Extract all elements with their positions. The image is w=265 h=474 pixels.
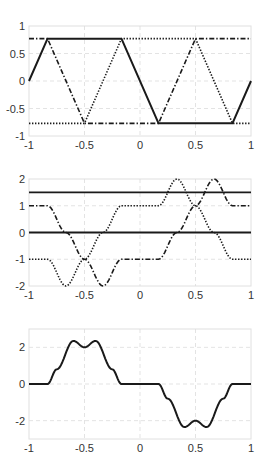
x-tick-label: 0 — [137, 139, 143, 151]
x-tick-label: 1 — [248, 139, 254, 151]
x-tick-label: -0.5 — [75, 289, 94, 301]
x-tick-label: -0.5 — [75, 442, 94, 454]
x-tick-label: -0.5 — [75, 139, 94, 151]
x-tick-label: -1 — [24, 139, 34, 151]
x-tick-label: 0.5 — [188, 289, 203, 301]
y-tick-label: 0 — [19, 75, 25, 87]
x-tick-label: 0.5 — [188, 139, 203, 151]
x-tick-label: 0 — [137, 289, 143, 301]
y-tick-label: -1 — [15, 253, 25, 265]
y-tick-label: 0 — [19, 378, 25, 390]
y-tick-label: -1 — [15, 130, 25, 142]
subplot-top: -1-0.500.51-1-0.500.51 — [6, 20, 254, 151]
x-tick-label: 0 — [137, 442, 143, 454]
y-tick-label: -2 — [15, 415, 25, 427]
x-tick-label: 1 — [248, 442, 254, 454]
figure: -1-0.500.51-1-0.500.51 -1-0.500.51-2-101… — [0, 0, 265, 474]
x-tick-label: -1 — [24, 289, 34, 301]
y-tick-label: -0.5 — [6, 103, 25, 115]
y-tick-label: 2 — [19, 341, 25, 353]
x-tick-label: -1 — [24, 442, 34, 454]
y-tick-label: 1 — [19, 200, 25, 212]
y-tick-label: -2 — [15, 280, 25, 292]
x-tick-label: 1 — [248, 289, 254, 301]
x-tick-label: 0.5 — [188, 442, 203, 454]
y-tick-label: 1 — [19, 20, 25, 32]
subplot-middle: -1-0.500.51-2-1012 — [15, 173, 254, 301]
y-tick-label: 0 — [19, 227, 25, 239]
subplot-bottom: -1-0.500.51-202 — [15, 329, 254, 454]
y-tick-label: 0.5 — [10, 48, 25, 60]
y-tick-label: 2 — [19, 173, 25, 185]
